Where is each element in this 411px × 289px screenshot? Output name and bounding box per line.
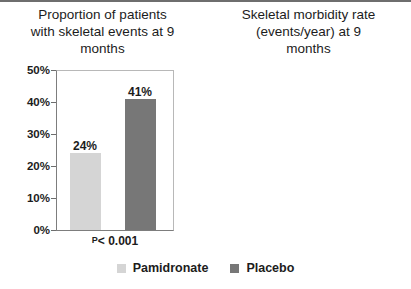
chart-title-left-line-2: with skeletal events at 9 [8,23,197,40]
chart-panel-proportion: Proportion of patients with skeletal eve… [0,0,205,260]
legend-swatch-pamidronate-icon [117,264,126,273]
legend-label-placebo: Placebo [246,261,294,275]
chart-title-right-line-1: Skeletal morbidity rate [214,6,403,23]
legend-swatch-placebo-icon [230,264,239,273]
ytick-label-left-30: 30% [8,128,50,140]
chart-panel-morbidity-rate: Skeletal morbidity rate (events/year) at… [206,0,411,260]
chart-title-right-line-3: months [214,40,403,57]
chart-title-left-line-1: Proportion of patients [8,6,197,23]
ytick-label-left-10: 10% [8,192,50,204]
chart-title-right: Skeletal morbidity rate (events/year) at… [214,6,403,57]
ytick-mark-left-0 [51,230,56,231]
figure-canvas: Proportion of patients with skeletal eve… [0,0,411,289]
legend-label-pamidronate: Pamidronate [133,261,209,275]
ytick-mark-left-10 [51,198,56,199]
bar-left-pamidronate [70,153,101,230]
bar-left-placebo [125,99,156,230]
ytick-mark-left-40 [51,102,56,103]
pvalue-text-left: < 0.001 [98,234,138,248]
legend-item-placebo: Placebo [230,261,294,275]
chart-title-left-line-3: months [8,40,197,57]
legend-item-pamidronate: Pamidronate [117,261,209,275]
bar-value-left-placebo: 41% [128,85,152,99]
ytick-mark-left-50 [51,70,56,71]
pvalue-annotation-left: P< 0.001 [55,234,175,248]
chart-title-right-line-2: (events/year) at 9 [214,23,403,40]
ytick-label-left-50: 50% [8,64,50,76]
bar-value-left-pamidronate: 24% [73,139,97,153]
ytick-label-left-0: 0% [8,224,50,236]
ytick-mark-left-30 [51,134,56,135]
chart-legend: Pamidronate Placebo [0,258,411,278]
chart-title-left: Proportion of patients with skeletal eve… [8,6,197,57]
ytick-label-left-40: 40% [8,96,50,108]
ytick-mark-left-20 [51,166,56,167]
ytick-label-left-20: 20% [8,160,50,172]
